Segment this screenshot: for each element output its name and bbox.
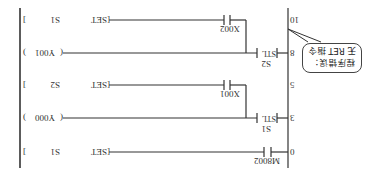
stl-label: S1 bbox=[261, 124, 271, 134]
contact-label: X001 bbox=[220, 89, 240, 99]
set-operand: S1 bbox=[50, 147, 60, 157]
step-number: 5 bbox=[290, 80, 304, 90]
callout-pointer bbox=[288, 29, 321, 42]
set-operand: S2 bbox=[50, 80, 60, 90]
coil-close: ) bbox=[23, 113, 26, 123]
stl-label: S2 bbox=[261, 59, 271, 69]
coil-open: ( bbox=[60, 48, 63, 58]
callout-line-2: 无 RET 指令 bbox=[303, 45, 361, 57]
stl-box: STL bbox=[262, 48, 276, 58]
coil-open: ( bbox=[60, 113, 63, 123]
contact-label: M8002 bbox=[254, 156, 280, 166]
step-number: 0 bbox=[290, 147, 304, 157]
ladder-diagram: 0 3 5 8 10 M8002 X001 X002 STL S1 STL S2… bbox=[0, 0, 381, 179]
set-operand: S1 bbox=[50, 15, 60, 25]
step-number: 10 bbox=[290, 15, 304, 25]
set-instruction: SET bbox=[91, 80, 107, 90]
bracket-close: ] bbox=[23, 147, 26, 157]
bracket-close: ] bbox=[23, 80, 26, 90]
error-callout: 程序错误： 无 RET 指令 bbox=[302, 43, 362, 73]
coil-close: ) bbox=[23, 48, 26, 58]
set-instruction: SET bbox=[91, 147, 107, 157]
coil-operand: Y001 bbox=[35, 48, 55, 58]
contact-label: X002 bbox=[220, 24, 240, 34]
callout-line-1: 程序错误： bbox=[303, 57, 361, 69]
stl-box: STL bbox=[262, 113, 276, 123]
coil-operand: Y000 bbox=[35, 113, 55, 123]
bracket-close: ] bbox=[23, 15, 26, 25]
set-instruction: SET bbox=[91, 15, 107, 25]
step-number: 3 bbox=[290, 113, 304, 123]
